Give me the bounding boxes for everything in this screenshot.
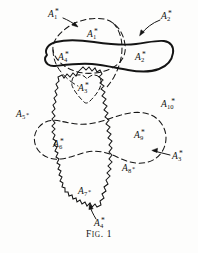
label-a4-inner-star: *: [65, 50, 69, 59]
figure-drawing: [0, 0, 198, 253]
label-a3-outer-base: A: [172, 151, 178, 161]
label-a10-base: A: [161, 99, 167, 109]
label-a6: A6*: [53, 138, 64, 151]
label-a1-outer-base: A: [48, 9, 54, 19]
label-a7-star: *: [88, 188, 91, 195]
label-a7: A7*: [78, 187, 91, 197]
label-a1-inner-base: A: [87, 29, 93, 39]
label-a4-inner-base: A: [58, 52, 64, 62]
label-a9-star: *: [141, 128, 145, 137]
label-a2-outer: A2*: [161, 10, 172, 23]
label-a1-outer-star: *: [55, 7, 59, 16]
label-a4-outer-star: *: [101, 216, 105, 225]
label-a5: A5*: [16, 110, 29, 120]
figure-container: A1* A1* A2* A2* A4* A3* A5* A10* A6* A9*…: [0, 0, 198, 253]
label-a4-outer-base: A: [94, 218, 100, 228]
label-a5-star: *: [26, 111, 29, 118]
label-a3-inner-star: *: [85, 81, 89, 90]
label-a5-sub: 5: [22, 113, 25, 120]
label-a2-inner-base: A: [135, 52, 141, 62]
label-a1-inner-star: *: [94, 27, 98, 36]
label-a9: A9*: [134, 129, 145, 142]
caption-number: 1: [107, 229, 112, 239]
label-a3-outer: A3*: [172, 150, 183, 163]
label-a2-inner-star: *: [142, 50, 146, 59]
label-a8-star: *: [132, 165, 135, 172]
label-a8-sub: 8: [128, 167, 131, 174]
figure-caption: FIG. 1: [0, 229, 198, 239]
label-a9-base: A: [134, 130, 140, 140]
label-a10: A10*: [161, 98, 175, 111]
label-a4-outer: A4*: [94, 217, 105, 230]
caption-ig: IG: [92, 230, 101, 239]
label-a6-base: A: [53, 139, 59, 149]
label-a3-outer-star: *: [179, 149, 183, 158]
label-a10-star: *: [171, 97, 175, 106]
label-a7-sub: 7: [84, 190, 87, 197]
label-a2-inner: A2*: [135, 51, 146, 64]
label-a2-outer-star: *: [168, 9, 172, 18]
label-a5-base: A: [16, 109, 22, 119]
label-a4-inner: A4*: [58, 51, 69, 64]
label-a2-outer-base: A: [161, 11, 167, 21]
label-a3-inner-base: A: [78, 83, 84, 93]
label-a8: A8*: [122, 164, 135, 174]
label-a8-base: A: [122, 163, 128, 173]
leader-arrow-a3-head: [152, 148, 158, 152]
label-a1-outer: A1*: [48, 8, 59, 21]
label-a6-star: *: [60, 137, 64, 146]
label-a1-inner: A1*: [87, 28, 98, 41]
region-a1-right-sweep: [105, 23, 122, 89]
label-a7-base: A: [78, 186, 84, 196]
label-a3-inner: A3*: [78, 82, 89, 95]
